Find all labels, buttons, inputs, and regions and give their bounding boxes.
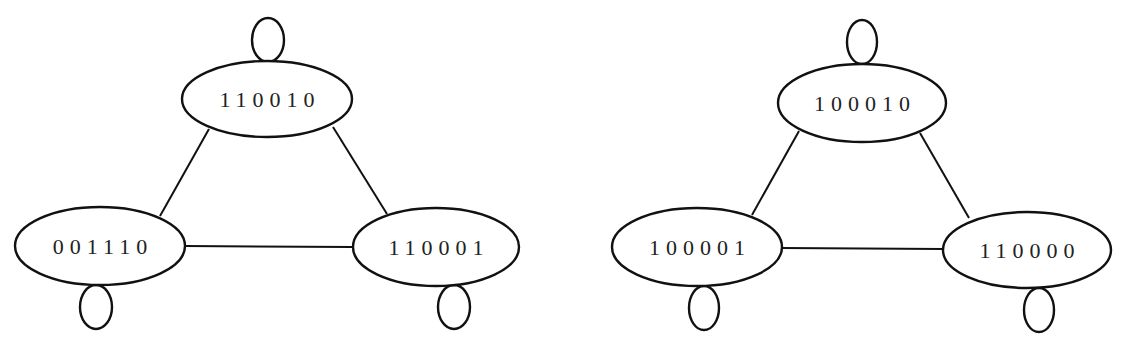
state-node-bottom-left: 100001 <box>612 208 782 286</box>
self-loop-top <box>252 18 284 62</box>
state-node-bottom-left: 001110 <box>15 207 185 285</box>
node-label: 110001 <box>388 235 489 260</box>
node-label: 110010 <box>219 87 320 112</box>
self-loop-top <box>847 20 877 64</box>
right-graph: 100010100001110000 <box>612 20 1111 332</box>
left-graph: 110010001110110001 <box>15 18 519 329</box>
diagram-canvas: 110010001110110001100010100001110000 <box>0 0 1131 342</box>
node-label: 100010 <box>814 91 916 116</box>
edge-top-to-bottom-left <box>752 131 799 215</box>
edge-top-to-bottom-right <box>920 133 969 218</box>
edge-bottom-left-to-bottom-right <box>782 248 943 249</box>
self-loop-bottom-right <box>1024 288 1054 332</box>
edge-top-to-bottom-left <box>160 129 209 216</box>
self-loop-bottom-right <box>438 285 470 329</box>
state-node-bottom-right: 110000 <box>943 212 1111 288</box>
edge-bottom-left-to-bottom-right <box>185 246 353 247</box>
node-label: 100001 <box>649 235 751 260</box>
state-node-top: 110010 <box>182 61 352 137</box>
node-label: 001110 <box>53 234 153 259</box>
self-loop-bottom-left <box>80 285 112 329</box>
state-node-bottom-right: 110001 <box>353 208 519 286</box>
edge-top-to-bottom-right <box>333 127 387 214</box>
state-node-top: 100010 <box>778 64 946 142</box>
self-loop-bottom-left <box>689 286 719 330</box>
node-label: 110000 <box>979 238 1080 263</box>
